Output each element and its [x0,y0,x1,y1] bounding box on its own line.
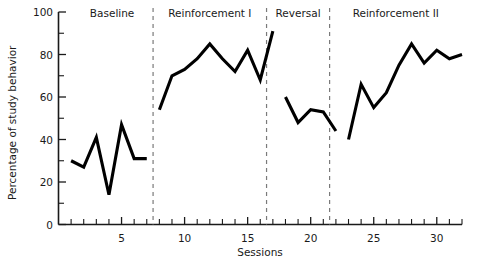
phase-label-reversal: Reversal [276,7,321,19]
data-line-segment-1 [71,125,147,195]
x-tick-label-10: 10 [178,232,191,244]
y-tick-label-80: 80 [40,49,53,61]
x-tick-label-15: 15 [241,232,254,244]
data-line-segment-4 [349,44,462,140]
x-tick-label-30: 30 [430,232,443,244]
y-tick-label-100: 100 [33,6,53,18]
y-axis-ticks [59,12,67,225]
data-line-segment-2 [159,31,272,110]
y-tick-label-40: 40 [40,134,53,146]
chart-svg: Percentage of study behavior 100 80 60 4… [0,0,478,263]
y-tick-label-0: 0 [46,219,53,231]
phase-label-baseline: Baseline [90,7,135,19]
phase-labels: Baseline Reinforcement I Reversal Reinfo… [90,7,439,19]
y-axis-tick-labels: 100 80 60 40 20 0 [33,6,53,231]
data-line-segment-3 [285,97,335,131]
phase-label-reinforcement-2: Reinforcement II [353,7,439,19]
x-axis-title: Sessions [237,246,283,258]
y-tick-label-20: 20 [40,176,53,188]
y-tick-label-60: 60 [40,91,53,103]
x-tick-label-20: 20 [304,232,317,244]
x-tick-label-25: 25 [367,232,380,244]
y-axis-title: Percentage of study behavior [6,45,18,200]
phase-label-reinforcement-1: Reinforcement I [168,7,251,19]
study-behavior-chart: Percentage of study behavior 100 80 60 4… [0,0,478,263]
x-tick-label-5: 5 [118,232,125,244]
x-axis-tick-labels: 51015202530 [118,232,443,244]
